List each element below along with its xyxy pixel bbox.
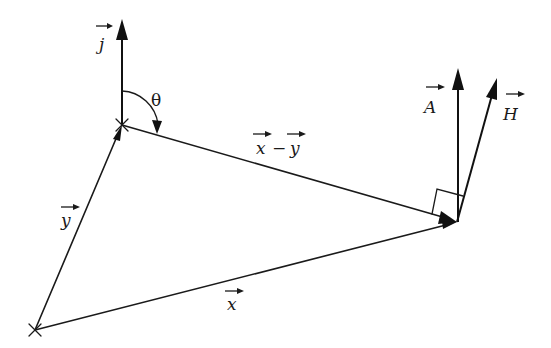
arrowhead-icon [116,19,128,40]
vector-diagram: j θ x − y A H y x [0,0,551,348]
arrowhead-icon [452,68,464,90]
label-y: y [60,204,80,230]
vector-x [35,225,446,330]
vector-H [457,78,497,222]
cross-point-O [29,324,41,336]
svg-text:x: x [256,138,266,158]
label-theta: θ [151,90,161,110]
vector-j [116,19,128,125]
label-x: x [225,288,244,314]
arrowhead-icon [113,125,122,141]
label-x-minus-y: x − y [253,131,306,158]
svg-text:y: y [60,210,71,230]
arrowhead-icon [152,120,162,134]
vector-y [35,125,122,330]
label-H: H [502,91,525,124]
svg-text:H: H [502,104,519,124]
vector-A [452,68,464,222]
svg-text:A: A [422,97,436,117]
svg-text:−: − [272,138,286,158]
svg-text:y: y [289,138,300,158]
arrowhead-icon [486,78,497,100]
svg-text:x: x [227,294,237,314]
svg-text:j: j [95,34,105,54]
label-j: j [95,23,113,54]
label-A: A [422,84,445,117]
